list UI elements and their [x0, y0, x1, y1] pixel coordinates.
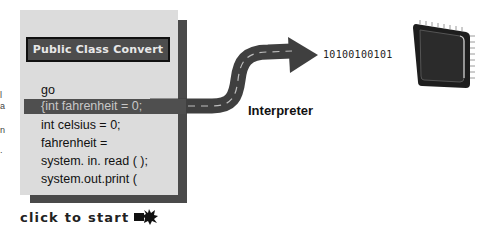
start-label: click to start — [20, 210, 129, 225]
code-line: system.out.print ( — [41, 171, 137, 187]
starburst-arrow-icon — [133, 208, 159, 226]
code-line: fahrenheit = — [41, 135, 107, 151]
code-line: go — [41, 82, 55, 98]
start-button[interactable]: click to start — [20, 208, 159, 226]
interpreter-label: Interpreter — [248, 103, 313, 118]
code-line: int celsius = 0; — [41, 117, 121, 133]
binary-output: 10100100101 — [323, 49, 393, 60]
cpu-chip-icon — [408, 18, 480, 94]
code-line: system. in. read ( ); — [41, 153, 148, 169]
code-line-highlighted: {int fahrenheit = 0; — [41, 98, 142, 114]
